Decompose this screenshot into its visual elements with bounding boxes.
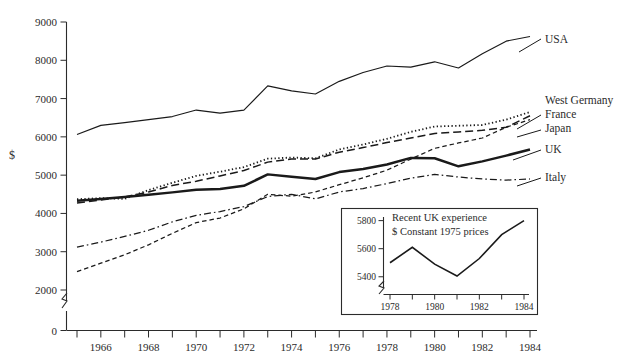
inset-y-tick-label: 5800 bbox=[357, 216, 376, 226]
x-tick-label: 1968 bbox=[138, 341, 161, 353]
y-tick-label: 3000 bbox=[35, 246, 58, 258]
x-tick-label: 1976 bbox=[328, 341, 351, 353]
x-tick-label: 1978 bbox=[376, 341, 399, 353]
label-leader-usa bbox=[519, 39, 541, 52]
series-label-japan: Japan bbox=[545, 122, 571, 135]
inset-title-line2: $ Constant 1975 prices bbox=[392, 226, 489, 237]
y-tick-label: 7000 bbox=[35, 93, 58, 105]
series-label-usa: USA bbox=[545, 33, 569, 45]
inset-chart: 540056005800 1978198019821984 Recent UK … bbox=[342, 209, 538, 315]
series-label-uk: UK bbox=[545, 143, 562, 155]
y-tick-label-group: 020003000400050006000700080009000 bbox=[35, 16, 58, 337]
x-tick-label: 1974 bbox=[281, 341, 304, 353]
inset-x-tick-label: 1978 bbox=[381, 302, 400, 312]
series-line-france bbox=[77, 116, 530, 203]
x-tick-label: 1966 bbox=[90, 341, 113, 353]
y-tick-label: 4000 bbox=[35, 207, 58, 219]
y-axis-title: $ bbox=[9, 148, 15, 162]
y-axis: 020003000400050006000700080009000 $ bbox=[9, 16, 67, 337]
series-line-west-germany bbox=[77, 112, 530, 199]
x-tick-label: 1980 bbox=[424, 341, 447, 353]
y-tick-group bbox=[61, 22, 67, 331]
series-label-italy: Italy bbox=[545, 171, 566, 184]
inset-y-tick-label: 5600 bbox=[357, 244, 376, 254]
series-label-west-germany: West Germany bbox=[545, 94, 614, 107]
x-tick-group bbox=[77, 331, 530, 338]
inset-y-tick-label: 5400 bbox=[357, 272, 376, 282]
series-label-group: USAWest GermanyFranceJapanUKItaly bbox=[513, 33, 614, 186]
line-chart-figure: 020003000400050006000700080009000 $ 1966… bbox=[0, 0, 642, 362]
x-tick-label: 1972 bbox=[233, 341, 255, 353]
y-tick-label: 0 bbox=[52, 325, 58, 337]
inset-y-tick-label-group: 540056005800 bbox=[357, 216, 376, 282]
inset-x-tick-label: 1982 bbox=[470, 302, 489, 312]
inset-x-tick-label: 1984 bbox=[515, 302, 534, 312]
y-tick-label: 8000 bbox=[35, 54, 58, 66]
x-tick-label: 1982 bbox=[471, 341, 493, 353]
inset-x-tick-label: 1980 bbox=[425, 302, 444, 312]
series-line-usa bbox=[77, 37, 530, 135]
y-tick-label: 5000 bbox=[35, 169, 58, 181]
inset-title-line1: Recent UK experience bbox=[392, 212, 487, 223]
x-axis: 1966196819701972197419761978198019821984 bbox=[67, 331, 542, 354]
y-tick-label: 9000 bbox=[35, 16, 58, 28]
y-tick-label: 2000 bbox=[35, 284, 58, 296]
x-tick-label: 1984 bbox=[519, 341, 542, 353]
series-label-france: France bbox=[545, 108, 576, 120]
y-tick-label: 6000 bbox=[35, 131, 58, 143]
x-tick-label: 1970 bbox=[185, 341, 208, 353]
x-tick-label-group: 1966196819701972197419761978198019821984 bbox=[90, 341, 542, 353]
series-line-uk bbox=[77, 149, 530, 200]
label-leader-japan bbox=[517, 130, 541, 137]
chart-root: 020003000400050006000700080009000 $ 1966… bbox=[0, 0, 642, 362]
